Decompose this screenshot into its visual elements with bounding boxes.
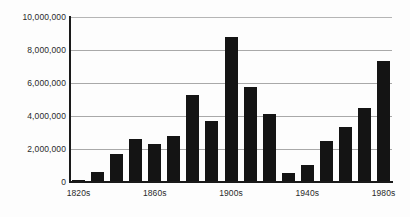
bar <box>358 108 371 182</box>
bar <box>339 127 352 182</box>
y-axis-tick-label: 4,000,000 <box>0 111 66 121</box>
bar <box>129 139 142 182</box>
y-axis-tick-label: 0 <box>0 177 66 187</box>
y-axis-tick-labels: 02,000,0004,000,0006,000,0008,000,00010,… <box>0 0 66 217</box>
bar-chart: 02,000,0004,000,0006,000,0008,000,00010,… <box>0 0 410 217</box>
x-axis-tick-label: 1900s <box>219 188 243 198</box>
bar <box>167 136 180 182</box>
bar <box>263 114 276 182</box>
x-axis-tick-label: 1940s <box>295 188 319 198</box>
y-axis-tick-label: 6,000,000 <box>0 78 66 88</box>
x-axis-line <box>69 181 393 183</box>
bar <box>205 121 218 182</box>
bar <box>320 141 333 182</box>
y-axis-tick-label: 8,000,000 <box>0 45 66 55</box>
bar <box>244 87 257 182</box>
bar <box>186 95 199 182</box>
x-axis-tick-labels: 1820s1860s1900s1940s1980s <box>70 188 392 204</box>
x-axis-tick-label: 1980s <box>372 188 396 198</box>
plot-area <box>70 17 392 182</box>
bar <box>377 61 390 182</box>
bar <box>225 37 238 182</box>
y-axis-line <box>69 16 71 183</box>
bar <box>110 154 123 182</box>
x-axis-tick-label: 1860s <box>143 188 167 198</box>
bar <box>301 165 314 182</box>
y-axis-tick-label: 2,000,000 <box>0 144 66 154</box>
x-axis-tick-label: 1820s <box>67 188 91 198</box>
bar-series <box>70 17 392 182</box>
y-axis-tick-label: 10,000,000 <box>0 12 66 22</box>
bar <box>148 144 161 182</box>
